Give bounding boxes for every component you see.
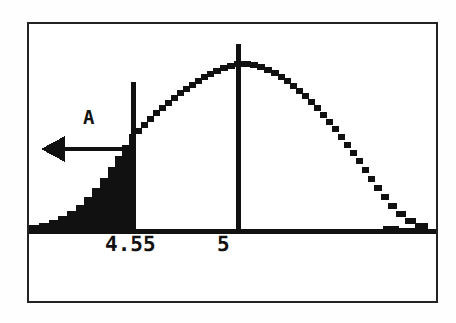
calculator-screenshot: 4.55 5 A xyxy=(0,0,456,323)
mean-vertical-line xyxy=(236,44,241,234)
normal-distribution-plot xyxy=(29,24,436,301)
normal-curve xyxy=(129,61,428,229)
x-tick-label-boundary: 4.55 xyxy=(105,234,156,255)
calculator-screen-frame: 4.55 5 A xyxy=(27,22,438,303)
arrow-region-label: A xyxy=(83,108,94,127)
distribution-graph-svg xyxy=(29,24,436,301)
boundary-vertical-line xyxy=(131,82,136,234)
x-axis-line xyxy=(29,229,436,234)
x-tick-label-mean: 5 xyxy=(217,234,230,255)
